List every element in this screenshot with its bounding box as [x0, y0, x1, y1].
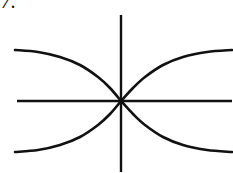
curve-upper-right	[121, 50, 232, 101]
curve-lower-left	[15, 101, 121, 152]
figure-container: 7.	[0, 0, 233, 173]
curve-plot	[0, 0, 233, 173]
curve-lower-right	[121, 101, 232, 152]
curve-upper-left	[15, 50, 121, 101]
